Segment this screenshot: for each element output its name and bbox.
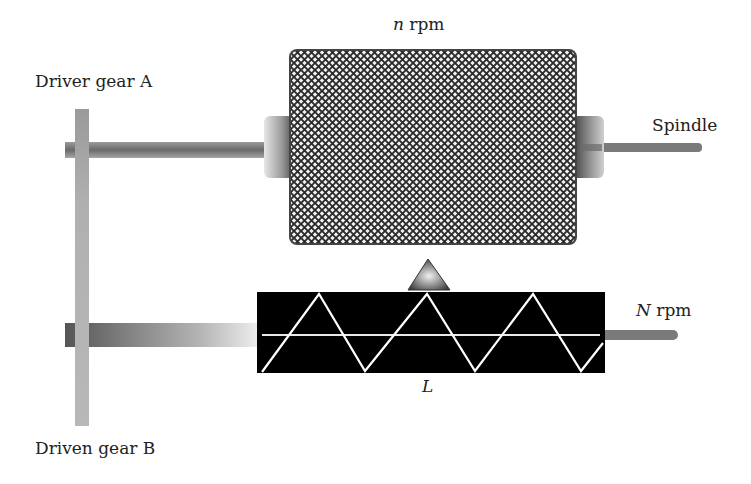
lead-var: L — [422, 376, 433, 396]
leadscrew-speed-label: N rpm — [636, 300, 691, 320]
spindle-label: Spindle — [652, 115, 717, 135]
spindle-shaft-left — [65, 142, 267, 158]
headstock-box — [290, 50, 576, 244]
spindle-shaft-right — [590, 143, 702, 152]
driver-gear-label: Driver gear A — [35, 71, 152, 91]
spindle-speed-label: n rpm — [393, 14, 445, 34]
spindle-speed-var: n — [393, 14, 404, 34]
spindle-speed-unit: rpm — [409, 14, 444, 34]
lead-screw — [257, 292, 605, 373]
leadscrew-speed-unit: rpm — [656, 300, 691, 320]
leadscrew-shaft-left — [65, 323, 259, 347]
leadscrew-shaft-right — [600, 330, 678, 340]
driven-gear-label: Driven gear B — [35, 438, 155, 458]
leadscrew-speed-var: N — [636, 300, 651, 320]
tool-pointer-icon — [408, 259, 450, 290]
gear-train-bar — [75, 109, 89, 426]
lead-label: L — [422, 376, 433, 396]
